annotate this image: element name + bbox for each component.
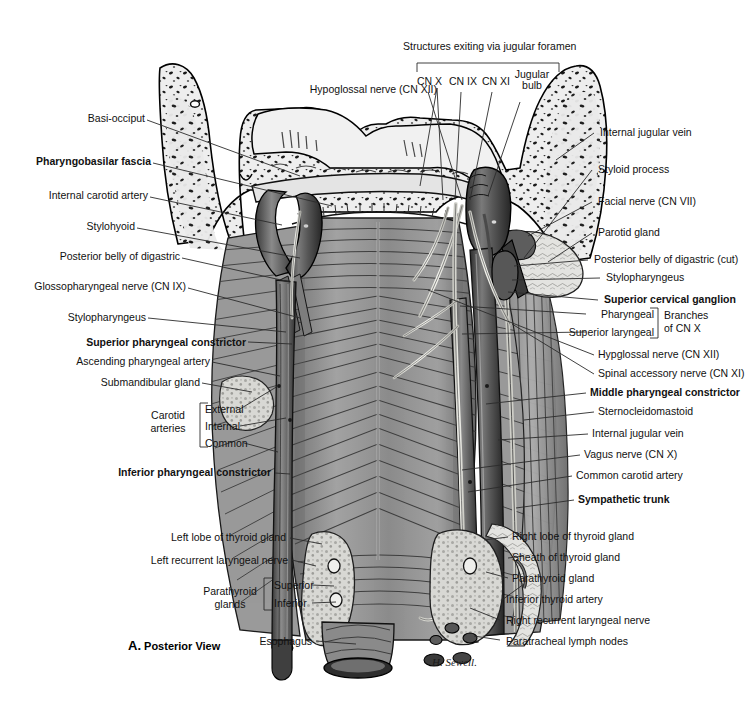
internal-carotid-artery-label: Internal carotid artery bbox=[0, 190, 148, 201]
superior-laryngeal-branch-label: Superior laryngeal bbox=[540, 327, 654, 338]
parathyroid-glands-group-label: Parathyroidglands bbox=[196, 585, 264, 611]
right-lobe-of-thyroid-gland-label: Right lobe of thyroid gland bbox=[512, 531, 634, 542]
carotid-common-label: Common bbox=[205, 438, 248, 449]
ascending-pharyngeal-artery-label: Ascending pharyngeal artery bbox=[0, 356, 210, 367]
glossopharyngeal-nerve-label: Glossopharyngeal nerve (CN IX) bbox=[0, 281, 186, 292]
hypoglossal-nerve-right-label: Hypglossal nerve (CN XII) bbox=[598, 349, 719, 360]
vagus-nerve-label: Vagus nerve (CN X) bbox=[584, 449, 677, 460]
cn-xi-label: CN XI bbox=[482, 76, 510, 87]
carotid-arteries-group-label: Carotidarteries bbox=[140, 409, 196, 435]
parotid-gland-label: Parotid gland bbox=[598, 227, 660, 238]
posterior-belly-of-digastric-cut-label: Posterior belly of digastric (cut) bbox=[594, 254, 738, 265]
caption-text: Posterior View bbox=[144, 640, 220, 652]
parathyroid-superior-left bbox=[328, 559, 340, 573]
common-carotid-artery-label: Common carotid artery bbox=[576, 470, 683, 481]
facial-nerve-label: Facial nerve (CN VII) bbox=[598, 196, 696, 207]
jugular-bulb-label: Jugularbulb bbox=[509, 69, 555, 91]
sheath-of-thyroid-gland-label: Sheath of thyroid gland bbox=[512, 552, 620, 563]
caption-letter: A. bbox=[128, 638, 141, 653]
middle-pharyngeal-constrictor-label: Middle pharyngeal constrictor bbox=[590, 387, 740, 398]
basi-occiput-label: Basi-occiput bbox=[0, 113, 145, 124]
figure-caption: A. Posterior View bbox=[128, 638, 220, 653]
artist-signature: H. Sewell. bbox=[431, 656, 477, 668]
parathyroid-inferior-left bbox=[330, 593, 342, 607]
pharyngeal-branch-label: Pharyngeal bbox=[560, 309, 654, 320]
stylopharyngeus-left-label: Stylopharyngeus bbox=[0, 312, 146, 323]
jugular-foramen-group-title: Structures exiting via jugular foramen bbox=[403, 41, 576, 52]
left-lobe-of-thyroid-gland-label: Left lobe of thyroid gland bbox=[0, 532, 286, 543]
pharyngobasilar-fascia-label: Pharyngobasilar fascia bbox=[0, 156, 151, 167]
right-recurrent-laryngeal-nerve-label: Right recurrent laryngeal nerve bbox=[506, 615, 650, 626]
spinal-accessory-nerve-label: Spinal accessory nerve (CN XI) bbox=[598, 368, 744, 379]
stylohyoid-label: Stylohyoid bbox=[0, 221, 135, 232]
inferior-thyroid-artery-label: Inferior thyroid artery bbox=[506, 594, 603, 605]
paratracheal-lymph-nodes-label: Paratracheal lymph nodes bbox=[506, 636, 628, 647]
parathyroid-right bbox=[464, 558, 477, 574]
submandibular-gland-label: Submandibular gland bbox=[0, 377, 200, 388]
parathyroid-superior-label: Superior bbox=[274, 580, 314, 591]
internal-jugular-vein-upper-label: Internal jugular vein bbox=[600, 127, 692, 138]
hypoglossal-nerve-label: Hypoglossal nerve (CN XII) bbox=[0, 84, 437, 95]
superior-cervical-ganglion-label: Superior cervical ganglion bbox=[604, 294, 736, 305]
inferior-pharyngeal-constrictor-label: Inferior pharyngeal constrictor bbox=[0, 467, 271, 478]
styloid-process-label: Styloid process bbox=[598, 164, 669, 175]
parathyroid-inferior-label: Inferior bbox=[274, 598, 307, 609]
superior-pharyngeal-constrictor-label: Superior pharyngeal constrictor bbox=[0, 337, 246, 348]
sympathetic-trunk-label: Sympathetic trunk bbox=[578, 494, 670, 505]
carotid-internal-label: Internal bbox=[205, 421, 240, 432]
left-recurrent-laryngeal-nerve-label: Left recurrent laryngeal nerve bbox=[0, 555, 288, 566]
carotid-external-label: External bbox=[205, 404, 244, 415]
stylopharyngeus-right-label: Stylopharyngeus bbox=[606, 272, 684, 283]
cn-ix-label: CN IX bbox=[449, 76, 477, 87]
parathyroid-gland-label: Parathyroid gland bbox=[512, 573, 594, 584]
posterior-belly-of-digastric-label: Posterior belly of digastric bbox=[0, 251, 180, 262]
internal-jugular-vein-lower-label: Internal jugular vein bbox=[592, 428, 684, 439]
branches-of-cn-x-group-label: Branchesof CN X bbox=[664, 309, 708, 335]
sternocleidomastoid-label: Sternocleidomastoid bbox=[598, 406, 693, 417]
